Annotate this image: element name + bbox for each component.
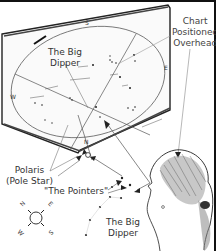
compass-rose-icon — [28, 210, 44, 226]
pointer-arrows — [108, 180, 127, 193]
label-line: Dipper — [106, 228, 140, 239]
label-chart-positioned-overhead: Chart Positioned Overhead — [172, 16, 216, 49]
label-line: Polaris — [6, 165, 53, 176]
star-chart — [0, 5, 177, 160]
label-line: Positioned — [172, 27, 216, 38]
label-line: Overhead — [172, 38, 216, 49]
sight-line — [108, 125, 150, 183]
label-line: Chart — [172, 16, 216, 27]
viewer-head — [147, 150, 213, 251]
chart-callout-line — [178, 49, 190, 155]
label-line: The Big — [106, 217, 140, 228]
label-line: Dipper — [48, 58, 82, 69]
label-big-dipper-sky: The Big Dipper — [106, 217, 140, 239]
label-line: The Big — [48, 47, 82, 58]
label-polaris: Polaris (Pole Star) — [6, 165, 53, 187]
chart-direction-north: N — [84, 138, 89, 145]
chart-direction-west: W — [10, 93, 16, 100]
illustration-frame: Chart Positioned Overhead The Big Dipper… — [0, 0, 216, 251]
chart-direction-south: S — [85, 19, 89, 26]
label-big-dipper-chart: The Big Dipper — [48, 47, 82, 69]
chart-direction-east: E — [164, 64, 168, 71]
label-the-pointers: "The Pointers" — [44, 186, 108, 196]
